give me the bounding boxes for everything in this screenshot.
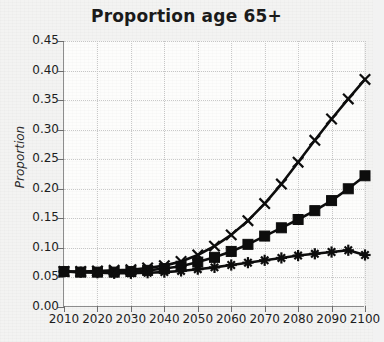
data-point-marker-plus [326, 246, 337, 257]
data-point-marker-square [327, 196, 337, 206]
chart-title: Proportion age 65+ [0, 6, 373, 26]
data-point-marker-plus [226, 259, 237, 270]
data-point-marker-x [343, 94, 353, 104]
data-point-marker-x [293, 157, 303, 167]
y-tick-label: 0.45 [25, 34, 59, 46]
series-high-growth [59, 74, 370, 277]
data-point-marker-plus [293, 250, 304, 261]
y-tick-label: 0.15 [25, 211, 59, 223]
y-tick-label: 0.35 [25, 93, 59, 105]
data-point-marker-square [343, 184, 353, 194]
y-tick-label: 0.25 [25, 152, 59, 164]
data-point-marker-square [260, 231, 270, 241]
data-point-marker-x [226, 230, 236, 240]
data-point-marker-x [276, 179, 286, 189]
data-point-marker-square [310, 206, 320, 216]
data-point-marker-plus [276, 252, 287, 263]
data-point-marker-square [226, 246, 236, 256]
data-point-marker-plus [359, 249, 370, 260]
y-tick-label: 0.30 [25, 123, 59, 135]
data-point-marker-x [243, 215, 253, 225]
data-point-marker-plus [209, 262, 220, 273]
data-point-marker-plus [242, 257, 253, 268]
y-tick-label: 0.10 [25, 241, 59, 253]
data-point-marker-square [243, 239, 253, 249]
series-line [64, 79, 365, 271]
series-medium-growth [59, 171, 370, 277]
data-point-marker-x [310, 135, 320, 145]
y-tick-label: 0.00 [25, 300, 59, 312]
series-layer [64, 41, 365, 307]
x-tick-label: 2100 [345, 313, 384, 325]
data-point-marker-plus [309, 248, 320, 259]
data-point-marker-square [276, 223, 286, 233]
y-tick-label: 0.20 [25, 182, 59, 194]
data-point-marker-square [360, 171, 370, 181]
y-tick-label: 0.40 [25, 64, 59, 76]
data-point-marker-square [293, 215, 303, 225]
data-point-marker-x [209, 241, 219, 251]
data-point-marker-plus [259, 255, 270, 266]
y-tick-label: 0.05 [25, 270, 59, 282]
plot-area: 0.450.400.350.300.250.200.150.100.050.00… [63, 41, 364, 307]
data-point-marker-x [259, 198, 269, 208]
data-point-marker-plus [343, 245, 354, 256]
data-point-marker-x [326, 114, 336, 124]
data-point-marker-square [210, 252, 220, 262]
